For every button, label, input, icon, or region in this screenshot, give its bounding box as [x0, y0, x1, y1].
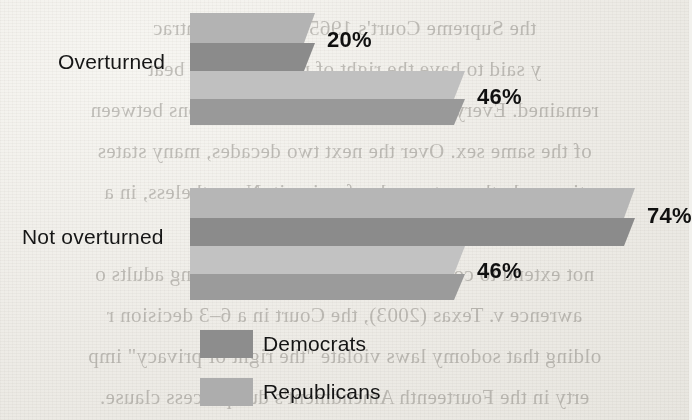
bar-top-face: [190, 188, 635, 218]
value-label-not-overturned-republicans: 46%: [477, 258, 522, 284]
bar-not-overturned-democrats: [190, 188, 635, 246]
legend-item-democrats: Democrats: [200, 330, 366, 358]
bar-overturned-democrats: [190, 13, 315, 71]
legend-label-democrats: Democrats: [263, 332, 366, 356]
bar-top-face: [190, 13, 315, 43]
value-label-overturned-democrats: 20%: [327, 27, 372, 53]
value-label-not-overturned-democrats: 74%: [647, 203, 692, 229]
legend-item-republicans: Republicans: [200, 378, 381, 406]
category-label-not-overturned: Not overturned: [22, 225, 164, 249]
bar-front-face: [190, 274, 465, 300]
bar-front-face: [190, 218, 635, 246]
legend-swatch-republicans: [200, 378, 253, 406]
bar-front-face: [190, 43, 315, 71]
legend-swatch-democrats: [200, 330, 253, 358]
bar-top-face: [190, 246, 465, 274]
value-label-overturned-republicans: 46%: [477, 84, 522, 110]
category-label-overturned: Overturned: [58, 50, 165, 74]
bar-front-face: [190, 99, 465, 125]
legend-label-republicans: Republicans: [263, 380, 381, 404]
bar-overturned-republicans: [190, 71, 465, 125]
bar-top-face: [190, 71, 465, 99]
bar-not-overturned-republicans: [190, 246, 465, 300]
